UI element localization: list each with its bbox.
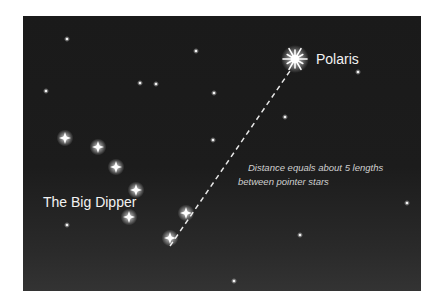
star-field — [23, 16, 421, 291]
distance-note-line1: Distance equals about 5 lengths — [238, 161, 383, 175]
distance-note: Distance equals about 5 lengths between … — [238, 161, 383, 189]
big-dipper-label: The Big Dipper — [43, 194, 136, 210]
polaris-label: Polaris — [316, 51, 359, 67]
night-sky-diagram: Polaris The Big Dipper Distance equals a… — [23, 16, 421, 291]
distance-note-line2: between pointer stars — [238, 175, 383, 189]
